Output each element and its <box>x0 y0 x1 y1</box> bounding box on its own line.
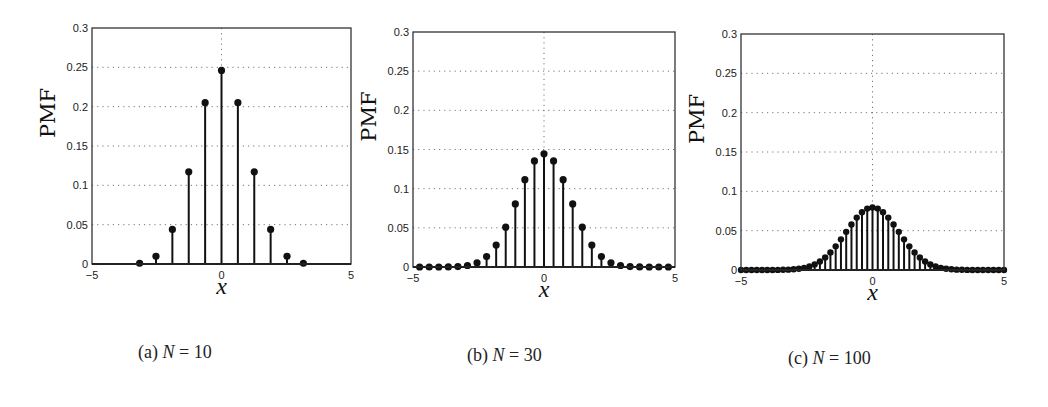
stem-marker <box>854 214 860 220</box>
caption-b: (b) N = 30 <box>467 345 542 366</box>
data-point <box>848 221 854 270</box>
y-tick-label: 0.05 <box>716 225 737 237</box>
data-point <box>869 204 875 270</box>
stem-marker <box>917 254 923 260</box>
y-tick-label: 0.3 <box>722 28 737 40</box>
caption-c-eq: = 100 <box>829 348 871 368</box>
caption-c-label: (c) <box>788 348 808 368</box>
data-point <box>906 243 912 270</box>
stem-marker <box>827 249 833 255</box>
y-axis-label: PMF <box>685 94 709 144</box>
caption-a-var: N <box>162 342 174 362</box>
data-point <box>911 249 917 270</box>
chart-panel-c: 00.050.10.150.20.250.3−505PMFx <box>0 0 1048 300</box>
y-tick-label: 0.2 <box>722 107 737 119</box>
caption-b-label: (b) <box>467 345 488 365</box>
caption-a-label: (a) <box>138 342 158 362</box>
data-point <box>832 243 838 270</box>
caption-a-eq: = 10 <box>179 342 212 362</box>
stem-marker <box>911 249 917 255</box>
data-point <box>854 214 860 270</box>
stem-marker <box>838 236 844 242</box>
stem-marker <box>832 243 838 249</box>
stem-marker <box>859 209 865 215</box>
data-point <box>864 205 870 270</box>
stem-series <box>738 204 1007 273</box>
data-point <box>875 205 881 270</box>
data-point <box>885 214 891 270</box>
data-point <box>843 229 849 270</box>
y-tick-label: 0.15 <box>716 146 737 158</box>
x-tick-label: 5 <box>1001 275 1007 287</box>
y-tick-label: 0.1 <box>722 185 737 197</box>
stem-marker <box>843 229 849 235</box>
caption-a: (a) N = 10 <box>138 342 212 363</box>
stem-marker <box>880 209 886 215</box>
caption-c-var: N <box>812 348 824 368</box>
data-point <box>932 263 938 270</box>
stem-marker <box>890 221 896 227</box>
stem-marker <box>901 236 907 242</box>
stem-marker <box>875 205 881 211</box>
stem-marker <box>896 229 902 235</box>
caption-b-eq: = 30 <box>509 345 542 365</box>
data-point <box>827 249 833 270</box>
caption-b-var: N <box>493 345 505 365</box>
data-point <box>901 236 907 270</box>
stem-marker <box>848 221 854 227</box>
data-point <box>838 236 844 270</box>
x-tick-label: −5 <box>735 275 748 287</box>
data-point <box>896 229 902 270</box>
stem-plot-c: 00.050.10.150.20.250.3−505PMFx <box>0 0 1048 300</box>
stem-marker <box>822 254 828 260</box>
x-axis-label: x <box>866 279 878 300</box>
data-point <box>890 221 896 270</box>
y-tick-label: 0.25 <box>716 67 737 79</box>
stem-marker <box>885 214 891 220</box>
stem-marker <box>906 243 912 249</box>
stem-marker <box>817 258 823 264</box>
caption-c: (c) N = 100 <box>788 348 871 369</box>
